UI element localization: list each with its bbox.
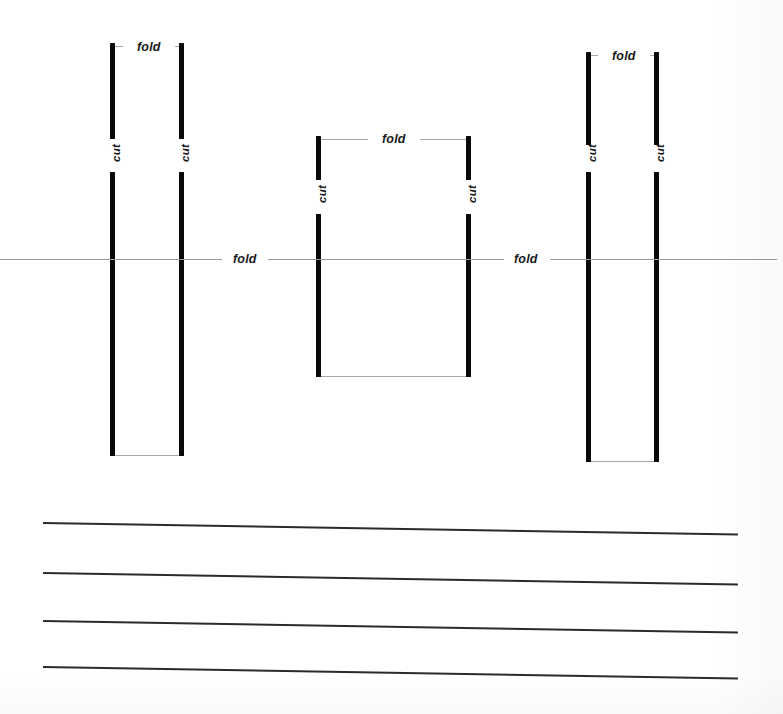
ruled-line <box>43 522 738 536</box>
cut-label-right-group-right: cut <box>654 144 666 162</box>
cut-label-middle-group-right: cut <box>466 185 478 203</box>
fold-label-right-group: fold <box>612 49 636 63</box>
cut-bar-right-upper <box>179 43 184 139</box>
cut-bar-right-lower <box>654 172 659 462</box>
cut-bar-left-lower <box>316 214 321 377</box>
fold-guide-line-middle-group <box>321 139 368 140</box>
horizontal-fold-line-segment <box>268 259 504 260</box>
cut-bar-left-lower <box>586 172 591 462</box>
cut-label-right-group-left: cut <box>586 144 598 162</box>
bottom-guide-line-middle-group <box>321 376 466 377</box>
cut-bar-right-lower <box>179 172 184 456</box>
bottom-guide-line-right-group <box>591 461 654 462</box>
cut-bar-left-lower <box>110 172 115 456</box>
cut-bar-right-upper <box>654 52 659 145</box>
scan-paper-tint <box>0 0 783 714</box>
fold-guide-line-right-group <box>591 55 598 56</box>
fold-guide-line-segment <box>420 139 466 140</box>
cut-bar-left-upper <box>316 136 321 180</box>
cut-label-middle-group-left: cut <box>316 185 328 203</box>
fold-guide-line-segment <box>650 55 654 56</box>
fold-guide-line-left-group <box>115 46 123 47</box>
ruled-line <box>43 666 738 680</box>
template-page: fold cut cut fold cut cut fold cut cut f… <box>0 0 783 714</box>
fold-label-middle-group: fold <box>382 132 406 146</box>
cut-bar-right-lower <box>466 214 471 377</box>
cut-label-left-group-left: cut <box>110 144 122 162</box>
horizontal-fold-line-segment <box>0 259 222 260</box>
horizontal-fold-line-segment <box>550 259 777 260</box>
fold-label-horizontal-left: fold <box>233 252 257 266</box>
cut-bar-left-upper <box>110 43 115 139</box>
fold-label-left-group: fold <box>137 40 161 54</box>
bottom-guide-line-left-group <box>115 455 179 456</box>
cut-label-left-group-right: cut <box>179 144 191 162</box>
cut-bar-right-upper <box>466 136 471 180</box>
cut-bar-left-upper <box>586 52 591 145</box>
fold-label-horizontal-right: fold <box>514 252 538 266</box>
ruled-line <box>43 620 738 634</box>
ruled-line <box>43 572 738 586</box>
fold-guide-line-segment <box>175 46 179 47</box>
